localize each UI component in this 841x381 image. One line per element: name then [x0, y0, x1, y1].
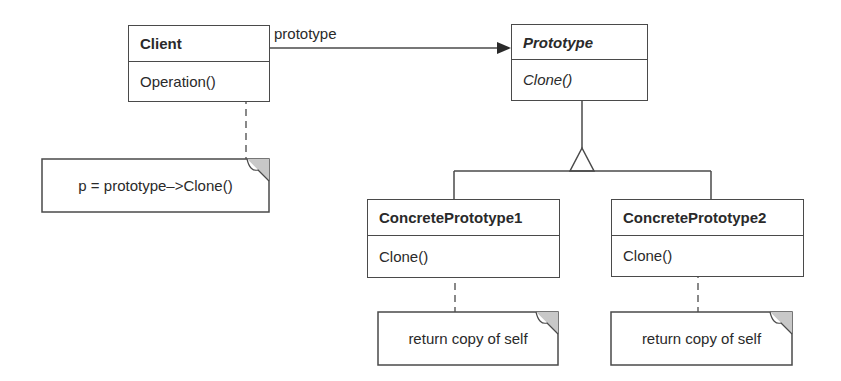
class-concrete-prototype-2[interactable]: ConcretePrototype2 Clone()	[611, 199, 804, 277]
class-client-name: Client	[129, 26, 269, 62]
class-prototype-name: Prototype	[512, 25, 647, 60]
class-client[interactable]: Client Operation()	[128, 25, 270, 102]
class-concrete-prototype-2-name: ConcretePrototype2	[612, 200, 803, 236]
association-label: prototype	[274, 25, 337, 42]
class-concrete-prototype-2-operation: Clone()	[612, 236, 803, 275]
class-prototype-operation: Clone()	[512, 60, 647, 99]
class-prototype[interactable]: Prototype Clone()	[511, 24, 648, 101]
class-client-operation: Operation()	[129, 62, 269, 100]
association-arrowhead	[497, 42, 511, 54]
concrete2-note: return copy of self	[611, 312, 792, 365]
concrete1-note: return copy of self	[378, 312, 558, 365]
class-concrete-prototype-1-name: ConcretePrototype1	[368, 200, 559, 236]
class-concrete-prototype-1[interactable]: ConcretePrototype1 Clone()	[367, 199, 560, 278]
inheritance-triangle	[570, 148, 594, 171]
client-note: p = prototype–>Clone()	[42, 159, 269, 212]
class-concrete-prototype-1-operation: Clone()	[368, 236, 559, 276]
